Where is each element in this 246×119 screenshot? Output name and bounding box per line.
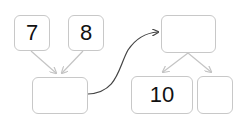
output-value: 10 [150, 82, 174, 108]
output-box-empty[interactable] [197, 76, 233, 114]
input-value: 8 [80, 20, 92, 46]
result-box-empty[interactable] [32, 77, 88, 114]
source-box-empty[interactable] [161, 15, 216, 53]
input-box-7: 7 [14, 15, 50, 51]
input-value: 7 [26, 20, 38, 46]
arrow-8-to-result [62, 51, 83, 73]
arrow-source-to-10 [163, 53, 188, 72]
input-box-8: 8 [68, 15, 104, 51]
arrow-7-to-result [31, 51, 56, 73]
arrow-source-to-empty [188, 53, 211, 72]
output-box-10: 10 [131, 76, 193, 114]
